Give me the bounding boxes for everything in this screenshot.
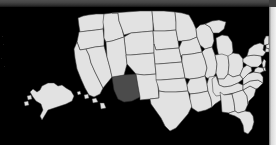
edge-artifact	[3, 44, 4, 45]
state-KS[interactable]	[155, 62, 185, 80]
state-ND[interactable]	[152, 11, 176, 31]
us-choropleth-map[interactable]	[0, 0, 276, 145]
state-OK[interactable]	[156, 78, 188, 92]
us-map-container[interactable]	[0, 0, 276, 145]
state-WY[interactable]	[124, 31, 154, 55]
edge-artifact	[4, 66, 5, 67]
state-SD[interactable]	[153, 30, 179, 50]
state-LA[interactable]	[190, 91, 212, 112]
screenshot-viewport	[0, 0, 276, 145]
edge-artifact	[1, 58, 2, 59]
right-edge-strip-cap	[269, 0, 276, 7]
top-gradient-band	[0, 0, 276, 7]
right-edge-light-strip	[269, 0, 276, 145]
edge-artifact	[2, 36, 3, 37]
